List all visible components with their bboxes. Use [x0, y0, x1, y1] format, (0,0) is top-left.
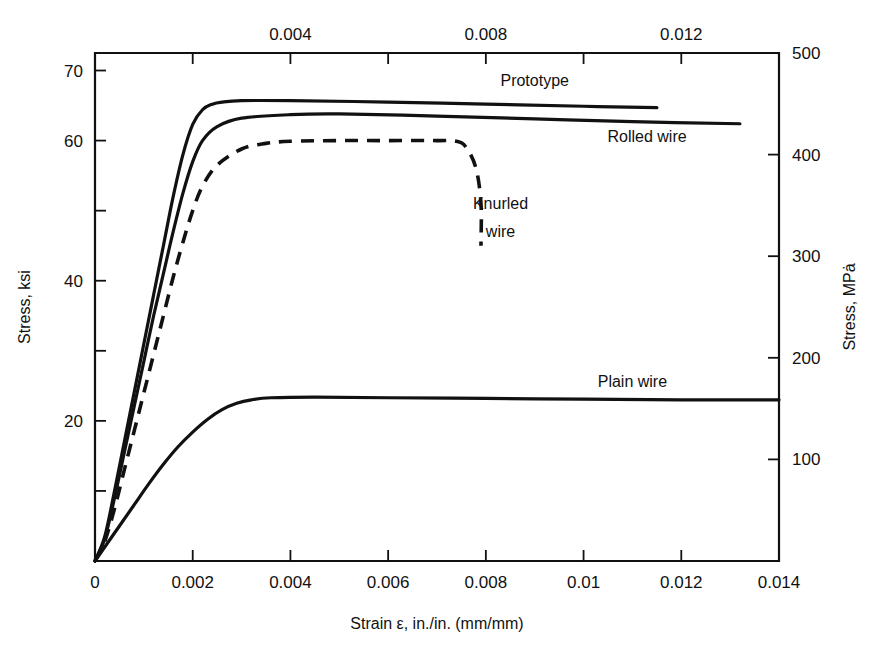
y-tick-label-right: 200	[792, 349, 820, 368]
x-tick-label-bottom: 0.002	[171, 573, 214, 592]
y-tick-label-left: 60	[64, 132, 83, 151]
chart-background	[0, 0, 876, 652]
x-tick-label-bottom: 0.008	[465, 573, 508, 592]
y-axis-left-title: Stress, ksi	[16, 270, 33, 344]
curve-label-rolled-wire: Rolled wire	[608, 128, 687, 145]
y-tick-label-right: 400	[792, 146, 820, 165]
curve-label-plain-wire: Plain wire	[598, 373, 667, 390]
x-tick-label-bottom: 0.01	[567, 573, 600, 592]
curve-label-prototype: Prototype	[500, 72, 569, 89]
y-tick-label-left: 40	[64, 272, 83, 291]
x-tick-label-bottom: 0.014	[758, 573, 801, 592]
y-tick-label-left: 20	[64, 412, 83, 431]
y-tick-label-right: 300	[792, 247, 820, 266]
x-tick-label-bottom: 0.004	[269, 573, 312, 592]
x-tick-label-top: 0.008	[465, 25, 508, 44]
curve-label-wire: wire	[485, 223, 515, 240]
chart-figure: 20406070 100200300400500 00.0020.0040.00…	[0, 0, 876, 652]
y-axis-right-title: Stress, MPȧ	[841, 263, 858, 350]
x-tick-label-top: 0.012	[660, 25, 703, 44]
stress-strain-chart: 20406070 100200300400500 00.0020.0040.00…	[0, 0, 876, 652]
x-tick-label-bottom: 0	[90, 573, 99, 592]
y-tick-label-right: 100	[792, 450, 820, 469]
x-tick-label-top: 0.004	[269, 25, 312, 44]
x-tick-label-bottom: 0.012	[660, 573, 703, 592]
x-tick-label-bottom: 0.006	[367, 573, 410, 592]
y-tick-label-left: 70	[64, 62, 83, 81]
x-axis-title: Strain ε, in./in. (mm/mm)	[350, 615, 523, 632]
curve-label-knurled: Knurled	[473, 195, 528, 212]
y-tick-label-right: 500	[792, 44, 820, 63]
